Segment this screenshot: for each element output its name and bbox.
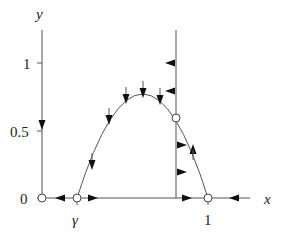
x-tick-label-gamma: γ bbox=[72, 212, 79, 228]
right-arrow-icon bbox=[88, 195, 98, 202]
down-arrow-icon bbox=[39, 120, 46, 130]
right-arrow-icon bbox=[182, 195, 192, 202]
y-axis bbox=[37, 30, 46, 198]
down-arrows bbox=[89, 81, 164, 170]
equilibrium-one bbox=[204, 194, 212, 202]
y-tick-label-1: 1 bbox=[23, 56, 31, 72]
left-arrow-icon bbox=[165, 60, 175, 67]
y-tick-label-0: 0 bbox=[20, 191, 28, 207]
x-axis-label: x bbox=[263, 191, 271, 207]
phase-portrait-diagram: y 1 0.5 0 x γ 1 bbox=[0, 0, 281, 236]
equilibrium-origin bbox=[38, 194, 46, 202]
equilibrium-interior bbox=[172, 114, 180, 122]
left-arrow-icon bbox=[229, 195, 239, 202]
equilibrium-gamma bbox=[73, 194, 81, 202]
left-arrow-icon bbox=[55, 195, 65, 202]
right-arrow-icon bbox=[177, 169, 187, 176]
left-arrow-icon bbox=[165, 88, 175, 95]
y-axis-label: y bbox=[34, 6, 43, 22]
parabola-nullcline bbox=[77, 81, 208, 198]
right-arrow-icon bbox=[177, 142, 187, 149]
x-tick-label-1: 1 bbox=[204, 212, 212, 228]
y-tick-label-0.5: 0.5 bbox=[10, 124, 29, 140]
